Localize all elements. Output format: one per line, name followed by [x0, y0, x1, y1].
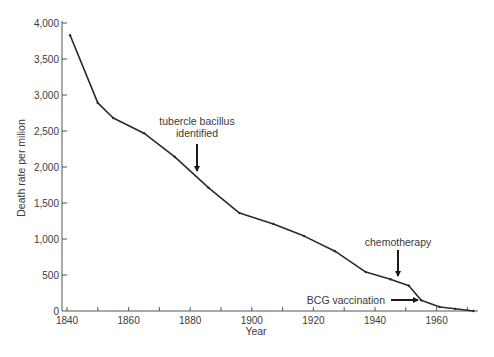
- data-point: [112, 117, 114, 119]
- y-tick-label: 500: [42, 270, 59, 281]
- data-point: [272, 223, 274, 225]
- data-series: [69, 34, 475, 312]
- data-point: [69, 34, 71, 36]
- y-axis: 05001,0001,5002,0002,5003,0003,5004,000: [34, 18, 67, 317]
- data-point: [454, 308, 456, 310]
- data-point: [303, 235, 305, 237]
- annotation-tubercle-bacillus: tubercle bacillusidentified: [159, 115, 234, 139]
- data-point: [238, 212, 240, 214]
- data-point: [207, 187, 209, 189]
- line-chart: 05001,0001,5002,0002,5003,0003,5004,000 …: [0, 0, 494, 357]
- y-tick-label: 3,500: [34, 54, 59, 65]
- annotations: tubercle bacillusidentifiedchemotherapyB…: [159, 115, 432, 306]
- data-point: [97, 102, 99, 104]
- data-point: [389, 278, 391, 280]
- data-point: [408, 285, 410, 287]
- data-point: [143, 132, 145, 134]
- y-tick-label: 1,500: [34, 198, 59, 209]
- y-tick-label: 2,500: [34, 126, 59, 137]
- data-point: [472, 310, 474, 312]
- data-point: [365, 271, 367, 273]
- y-axis-title: Death rate per milion: [15, 119, 27, 217]
- x-axis: 1840186018801900192019401960: [56, 307, 478, 326]
- y-tick-label: 1,000: [34, 234, 59, 245]
- annotation-chemotherapy: chemotherapy: [365, 236, 432, 248]
- annotation-bcg-vaccination: BCG vaccination: [307, 294, 385, 306]
- x-tick-label: 1880: [179, 315, 202, 326]
- x-tick-label: 1840: [56, 315, 79, 326]
- y-tick-label: 4,000: [34, 18, 59, 29]
- data-point: [334, 250, 336, 252]
- x-tick-label: 1960: [425, 315, 448, 326]
- y-tick-label: 2,000: [34, 162, 59, 173]
- data-point: [438, 306, 440, 308]
- x-tick-label: 1920: [302, 315, 325, 326]
- y-tick-label: 3,000: [34, 90, 59, 101]
- x-tick-label: 1940: [364, 315, 387, 326]
- x-axis-title: Year: [245, 325, 267, 337]
- data-point: [174, 156, 176, 158]
- data-point: [420, 299, 422, 301]
- x-tick-label: 1860: [117, 315, 140, 326]
- series-line: [70, 35, 474, 311]
